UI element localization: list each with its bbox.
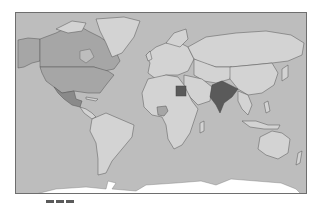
russia xyxy=(188,31,304,67)
new-zealand xyxy=(296,151,302,165)
antarctica xyxy=(36,179,301,193)
country-usa xyxy=(40,67,114,93)
cuba xyxy=(86,97,98,101)
country-india xyxy=(210,81,238,113)
central-america xyxy=(80,107,96,119)
country-egypt xyxy=(176,86,186,96)
madagascar xyxy=(200,121,204,133)
legend-swatch xyxy=(46,200,54,203)
australia xyxy=(258,131,290,159)
world-map xyxy=(15,12,307,194)
japan xyxy=(282,65,288,81)
map-canvas xyxy=(16,13,306,193)
map-legend xyxy=(46,200,74,203)
legend-swatch xyxy=(56,200,64,203)
south-america xyxy=(90,113,134,175)
indonesia xyxy=(242,121,280,129)
legend-swatch xyxy=(66,200,74,203)
europe xyxy=(146,41,194,79)
country-alaska xyxy=(18,38,40,68)
philippines xyxy=(264,101,270,113)
